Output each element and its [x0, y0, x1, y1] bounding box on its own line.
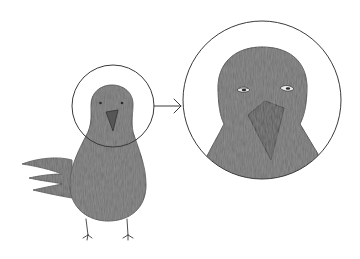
- eye-right: [121, 102, 124, 105]
- zoom-circle: [183, 21, 341, 200]
- arrow-icon: [154, 99, 181, 113]
- small-bird: [22, 85, 146, 240]
- legs: [83, 219, 133, 240]
- eye-left: [99, 102, 102, 105]
- zoomed-eye-left: [237, 87, 250, 92]
- bird-body: [70, 85, 146, 221]
- illustration-canvas: Hand-drawn gray crow with a circle aroun…: [0, 0, 360, 259]
- tail-feathers: [22, 158, 72, 198]
